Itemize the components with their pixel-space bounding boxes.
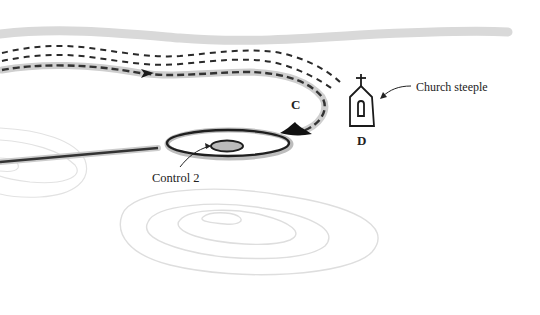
control-label: Control 2 — [152, 172, 200, 185]
point-d-label: D — [357, 134, 366, 147]
contour-lines — [120, 189, 378, 274]
approach-line — [0, 148, 158, 162]
orienteering-diagram: C D Church steeple Control 2 — [0, 0, 540, 315]
control-pointer-arrowhead — [205, 143, 211, 149]
control-center — [211, 141, 243, 152]
steeple-pointer-line — [383, 86, 411, 96]
point-c-label: C — [291, 98, 300, 111]
church-steeple-icon — [350, 74, 374, 126]
church-steeple-label: Church steeple — [416, 81, 488, 93]
steeple-pointer-arrowhead — [380, 92, 387, 99]
road-band — [0, 31, 508, 41]
